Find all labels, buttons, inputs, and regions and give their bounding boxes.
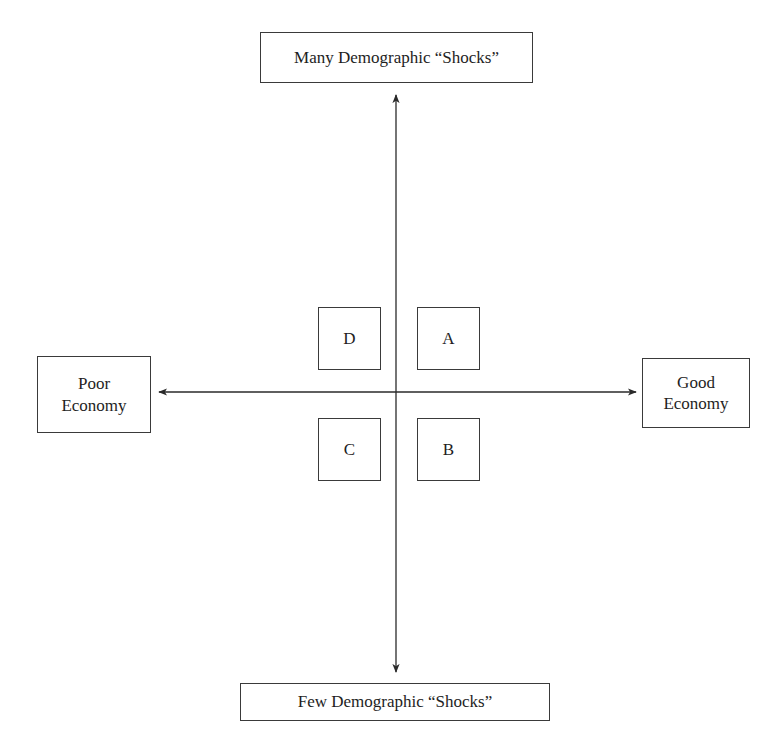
quadrant-d-label: D [343,328,355,349]
top-axis-label: Many Demographic “Shocks” [294,47,499,68]
quadrant-a-label: A [442,328,454,349]
right-axis-label-line2: Economy [663,393,728,414]
right-axis-label-box: Good Economy [642,358,750,428]
quadrant-b-box: B [417,418,480,481]
quadrant-c-label: C [344,439,355,460]
bottom-axis-label: Few Demographic “Shocks” [298,691,493,712]
quadrant-a-box: A [417,307,480,370]
bottom-axis-label-box: Few Demographic “Shocks” [240,683,550,721]
left-axis-label-line2: Economy [61,395,126,416]
quadrant-c-box: C [318,418,381,481]
quadrant-d-box: D [318,307,381,370]
left-axis-label-box: Poor Economy [37,356,151,433]
right-axis-label-line1: Good [677,372,715,393]
top-axis-label-box: Many Demographic “Shocks” [260,32,533,83]
left-axis-label-line1: Poor [78,373,110,394]
quadrant-b-label: B [443,439,454,460]
